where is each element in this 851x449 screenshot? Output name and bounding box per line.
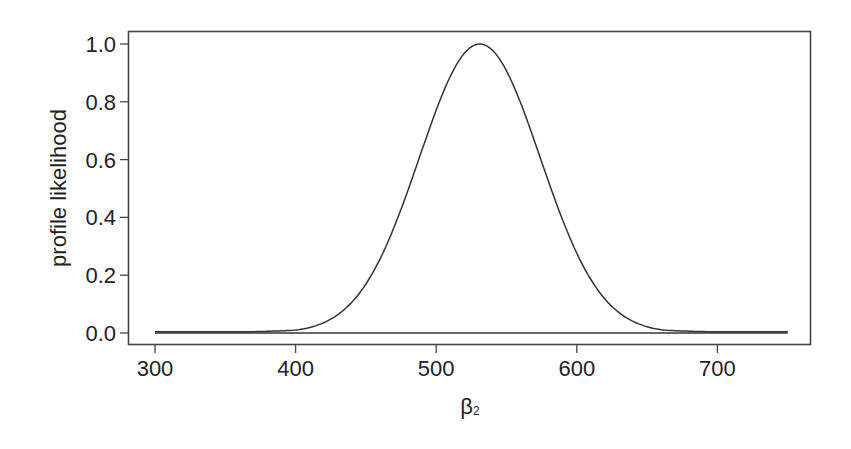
y-tick-label: 0.6 <box>85 148 116 173</box>
x-axis-title-main: β <box>460 394 473 419</box>
chart-svg: 0.00.20.40.60.81.0 300400500600700 profi… <box>0 0 851 449</box>
profile-likelihood-curve <box>155 44 788 332</box>
plot-frame <box>129 32 811 345</box>
x-tick-label: 700 <box>699 356 736 381</box>
y-axis-title: profile likelihood <box>46 109 71 267</box>
x-axis-title-subscript: 2 <box>473 404 480 418</box>
x-tick-label: 300 <box>137 356 174 381</box>
y-tick-label: 0.2 <box>85 263 116 288</box>
y-tick-label: 0.8 <box>85 90 116 115</box>
y-tick-label: 1.0 <box>85 32 116 57</box>
x-tick-label: 500 <box>418 356 455 381</box>
y-tick-label: 0.4 <box>85 205 116 230</box>
x-axis-title: β2 <box>460 394 480 419</box>
x-axis: 300400500600700 <box>137 345 736 382</box>
y-axis: 0.00.20.40.60.81.0 <box>85 32 128 346</box>
x-tick-label: 400 <box>277 356 314 381</box>
y-tick-label: 0.0 <box>85 321 116 346</box>
x-tick-label: 600 <box>558 356 595 381</box>
plot-lines <box>155 44 788 333</box>
